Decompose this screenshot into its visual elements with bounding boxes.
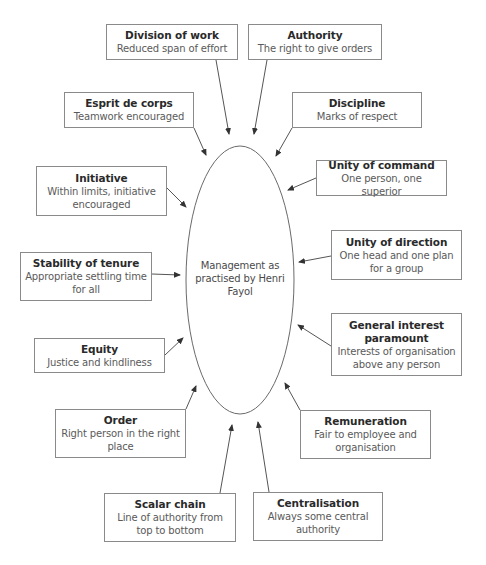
principle-box-initiative: InitiativeWithin limits, initiative enco… [36, 166, 167, 216]
principle-description: Right person in the right place [60, 427, 181, 453]
principle-title: Unity of direction [346, 236, 448, 249]
principle-description: Justice and kindliness [47, 356, 151, 369]
arrow-discipline [276, 128, 292, 156]
principle-description: Interests of organisation above any pers… [336, 345, 457, 371]
principle-box-unity-of-command: Unity of commandOne person, one superior [316, 160, 447, 196]
arrow-stability-of-tenure [152, 274, 180, 275]
principle-title: Division of work [125, 29, 219, 42]
principle-title: Centralisation [277, 497, 359, 510]
principle-description: Appropriate settling time for all [25, 270, 147, 296]
principle-box-stability-of-tenure: Stability of tenureAppropriate settling … [20, 252, 152, 301]
principle-title: Scalar chain [134, 498, 205, 511]
arrow-initiative [167, 188, 186, 207]
principle-box-centralisation: CentralisationAlways some central author… [253, 492, 383, 541]
principle-title: Authority [287, 29, 342, 42]
principle-box-unity-of-direction: Unity of directionOne head and one plan … [331, 230, 462, 280]
principle-box-order: OrderRight person in the right place [55, 409, 186, 458]
fayol-principles-diagram: Management as practised by Henri Fayol D… [0, 0, 486, 565]
arrow-order [186, 386, 196, 409]
principle-title: Discipline [329, 97, 386, 110]
arrow-division-of-work [216, 60, 229, 134]
principle-description: One person, one superior [321, 172, 442, 198]
arrow-centralisation [258, 422, 269, 492]
principle-title: Unity of command [328, 159, 434, 172]
principle-description: Within limits, initiative encouraged [41, 185, 162, 211]
principle-box-general-interest-paramount: General interest paramountInterests of o… [331, 313, 462, 376]
arrow-unity-of-command [288, 178, 316, 190]
principle-box-authority: AuthorityThe right to give orders [248, 24, 382, 60]
principle-title: Order [104, 414, 137, 427]
arrow-scalar-chain [220, 425, 232, 493]
principle-box-discipline: DisciplineMarks of respect [292, 92, 422, 128]
central-concept-label: Management as practised by Henri Fayol [192, 259, 288, 298]
principle-title: Esprit de corps [85, 97, 173, 110]
arrow-esprit-de-corps [194, 128, 206, 155]
principle-description: The right to give orders [258, 42, 372, 55]
principle-box-remuneration: RemunerationFair to employee and organis… [300, 410, 431, 459]
principle-box-division-of-work: Division of workReduced span of effort [106, 24, 238, 60]
principle-title: Stability of tenure [33, 257, 139, 270]
principle-description: One head and one plan for a group [336, 249, 457, 275]
arrow-remuneration [285, 383, 300, 410]
arrow-unity-of-direction [299, 256, 331, 262]
arrow-general-interest-paramount [298, 325, 331, 346]
principle-description: Line of authority from top to bottom [109, 511, 231, 537]
principle-description: Reduced span of effort [117, 42, 228, 55]
principle-description: Always some central authority [258, 510, 378, 536]
principle-description: Marks of respect [317, 110, 398, 123]
principle-box-scalar-chain: Scalar chainLine of authority from top t… [104, 493, 236, 542]
principle-description: Teamwork encouraged [74, 110, 185, 123]
principle-description: Fair to employee and organisation [305, 428, 426, 454]
arrow-authority [254, 60, 267, 134]
principle-title: General interest paramount [336, 319, 457, 345]
principle-box-equity: EquityJustice and kindliness [34, 338, 165, 373]
arrow-equity [165, 338, 183, 355]
principle-box-esprit-de-corps: Esprit de corpsTeamwork encouraged [64, 92, 194, 128]
principle-title: Initiative [75, 172, 127, 185]
principle-title: Remuneration [324, 415, 407, 428]
principle-title: Equity [81, 343, 118, 356]
